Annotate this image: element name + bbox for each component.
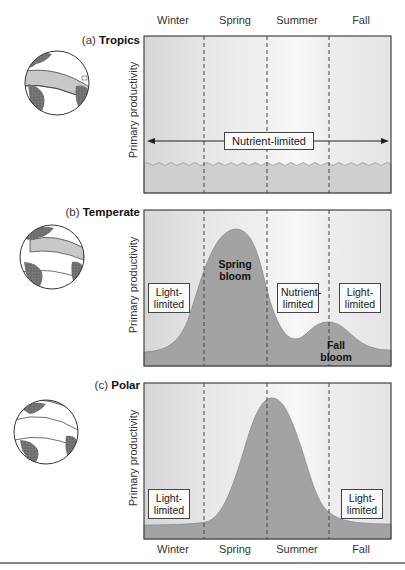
annotation-line: bloom <box>316 351 356 363</box>
globe-icon-tropics <box>20 51 94 115</box>
annotation-line: limited <box>345 504 379 516</box>
annotation-light-limited-fall-temperate: Light- limited <box>339 283 381 313</box>
annotation-fall-bloom: Fall bloom <box>316 339 356 363</box>
annotation-light-limited-fall-polar: Light- limited <box>341 489 383 519</box>
bottom-divider <box>0 562 405 564</box>
annotation-line: Light- <box>152 286 186 298</box>
annotation-line: limited <box>343 298 377 310</box>
season-label-winter-bottom: Winter <box>142 543 204 555</box>
annotation-nutrient-limited-temperate: Nutrient- limited <box>277 283 319 313</box>
annotation-light-limited-winter-polar: Light- limited <box>148 489 190 519</box>
annotation-line: Nutrient- <box>281 286 315 298</box>
annotation-line: limited <box>152 504 186 516</box>
season-label-spring-bottom: Spring <box>204 543 266 555</box>
annotation-line: limited <box>281 298 315 310</box>
globe-icon-polar <box>14 397 78 464</box>
annotation-line: limited <box>152 298 186 310</box>
annotation-line: Light- <box>152 492 186 504</box>
annotation-line: Light- <box>343 286 377 298</box>
annotation-line: bloom <box>210 270 260 282</box>
globe-icon-temperate <box>20 225 84 289</box>
season-label-fall-bottom: Fall <box>330 543 392 555</box>
panel-tropics <box>144 36 391 193</box>
season-label-summer-bottom: Summer <box>266 543 328 555</box>
annotation-line: Fall <box>316 339 356 351</box>
annotation-line: Spring <box>210 258 260 270</box>
annotation-spring-bloom: Spring bloom <box>210 258 260 282</box>
annotation-line: Light- <box>345 492 379 504</box>
annotation-light-limited-winter-temperate: Light- limited <box>148 283 190 313</box>
annotation-nutrient-limited-tropics: Nutrient-limited <box>224 132 314 150</box>
